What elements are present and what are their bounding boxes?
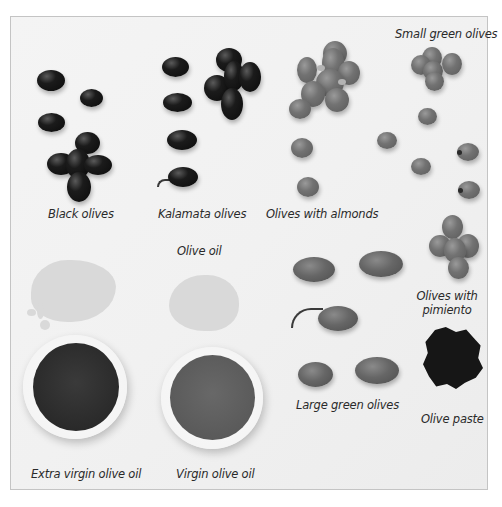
- almond: [317, 65, 325, 71]
- large-green-olive: [359, 251, 403, 277]
- label-kalamata-olives: Kalamata olives: [158, 207, 246, 221]
- small-green-olive: [457, 143, 479, 161]
- kalamata-olive: [168, 167, 198, 187]
- kalamata-olive: [221, 88, 243, 120]
- label-olives-with-pimiento: Olives with pimiento: [410, 289, 484, 317]
- small-green-olive: [418, 108, 437, 125]
- small-green-olive: [425, 72, 444, 91]
- kalamata-olive: [163, 93, 192, 112]
- label-extra-virgin-olive-oil: Extra virgin olive oil: [31, 467, 141, 481]
- black-olive: [84, 155, 112, 175]
- label-olive-oil: Olive oil: [177, 244, 222, 258]
- black-olive: [38, 113, 65, 132]
- large-green-olive: [293, 257, 335, 282]
- label-olives-with-pimiento-line1: Olives with: [416, 289, 477, 303]
- kalamata-olive: [167, 130, 197, 150]
- label-black-olives: Black olives: [48, 207, 114, 221]
- label-olives-with-almonds: Olives with almonds: [266, 207, 378, 221]
- small-green-olive: [377, 132, 397, 149]
- oil-drop: [40, 320, 50, 330]
- virgin-oil: [170, 355, 255, 440]
- large-green-olive: [355, 357, 399, 384]
- small-green-olive: [458, 181, 480, 199]
- olive-paste: [423, 327, 483, 389]
- extra-virgin-oil: [33, 343, 119, 431]
- oil-drop: [37, 303, 44, 319]
- label-large-green-olives: Large green olives: [296, 398, 399, 412]
- kalamata-olive: [162, 57, 189, 77]
- almond-olive: [289, 99, 311, 119]
- small-green-olive: [442, 53, 462, 75]
- almond-olive: [325, 88, 349, 112]
- almond-olive: [297, 177, 319, 197]
- almond-olive: [297, 57, 317, 83]
- label-virgin-olive-oil: Virgin olive oil: [176, 467, 254, 481]
- almond-olive: [291, 138, 313, 158]
- label-olive-paste: Olive paste: [421, 412, 484, 426]
- virgin-oil-bowl: [161, 347, 263, 449]
- small-green-olive: [411, 158, 431, 175]
- pimiento-olive: [448, 257, 469, 279]
- large-green-olive: [298, 362, 333, 387]
- black-olive: [37, 70, 65, 91]
- label-small-green-olives: Small green olives: [395, 27, 497, 41]
- extra-virgin-oil-bowl: [23, 335, 127, 439]
- black-olive: [67, 172, 91, 202]
- almond: [338, 79, 346, 85]
- oil-drop: [27, 309, 36, 316]
- label-olives-with-pimiento-line2: pimiento: [422, 303, 471, 317]
- black-olive: [80, 89, 103, 107]
- large-green-olive: [318, 306, 358, 331]
- virgin-oil-spill: [169, 275, 239, 331]
- kalamata-olive: [239, 62, 261, 92]
- illustration-panel: Black olives Kalamata olives Olives with…: [10, 16, 488, 490]
